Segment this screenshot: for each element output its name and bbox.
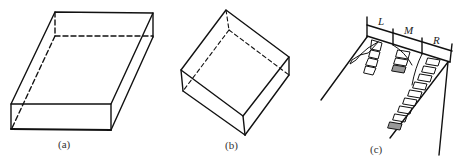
label-m: M [403,24,414,36]
label-l: L [377,15,384,27]
panel-c-chain-left [350,40,382,75]
caption-c: (c) [370,143,382,155]
panel-b-slab [181,10,289,135]
caption-a: (a) [58,138,70,150]
panel-c-chain-middle [392,50,410,73]
label-r: R [432,34,440,46]
caption-b: (b) [225,139,238,151]
panel-a-slab [11,12,153,130]
